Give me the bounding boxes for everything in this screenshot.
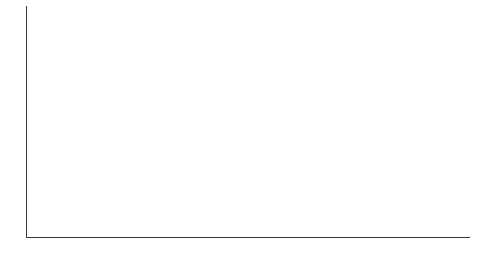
figure-caption	[46, 259, 466, 270]
x-axis-line	[26, 237, 470, 238]
scatter-plot-figure	[0, 0, 478, 270]
plot-area	[26, 6, 470, 237]
